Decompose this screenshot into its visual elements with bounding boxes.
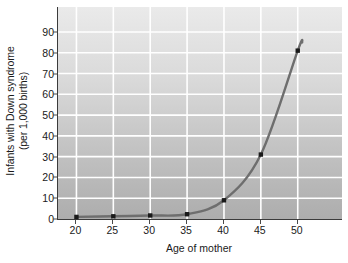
- chart-figure: Infants with Down syndrome (per 1,000 bi…: [0, 0, 348, 263]
- x-axis-tick-label: 50: [291, 224, 303, 236]
- x-axis-tick-label: 30: [143, 224, 155, 236]
- y-axis-tick-mark: [53, 177, 57, 178]
- y-axis-label-line1: Infants with Down syndrome: [4, 46, 17, 175]
- y-axis-tick-mark: [53, 135, 57, 136]
- y-axis-tick-mark: [53, 52, 57, 53]
- y-axis-tick-label: 70: [30, 68, 54, 79]
- y-axis-tick-mark: [53, 73, 57, 74]
- y-axis-tick-mark: [53, 198, 57, 199]
- y-axis-tick-label: 60: [30, 89, 54, 100]
- y-axis-tick-label: 0: [30, 214, 54, 225]
- x-axis-tick-mark: [260, 220, 261, 224]
- x-axis-tick-labels: 20253035404550: [57, 224, 341, 240]
- data-point-marker: [185, 212, 189, 216]
- y-axis-tick-mark: [53, 219, 57, 220]
- plot-area: [57, 7, 342, 220]
- y-axis-label-text: Infants with Down syndrome (per 1,000 bi…: [4, 46, 30, 175]
- y-axis-tick-label: 90: [30, 26, 54, 37]
- y-axis-tick-label: 10: [30, 193, 54, 204]
- y-axis-tick-label: 40: [30, 130, 54, 141]
- y-axis-tick-label: 30: [30, 151, 54, 162]
- y-axis-tick-mark: [53, 156, 57, 157]
- data-point-marker: [296, 48, 300, 52]
- x-axis-tick-mark: [223, 220, 224, 224]
- data-point-marker: [259, 152, 263, 156]
- y-axis-tick-label: 50: [30, 110, 54, 121]
- data-point-marker: [148, 213, 152, 217]
- data-point-marker: [222, 198, 226, 202]
- y-axis-tick-labels: 0102030405060708090: [30, 0, 54, 230]
- x-axis-tick-label: 35: [180, 224, 192, 236]
- x-axis-tick-label: 20: [70, 224, 82, 236]
- y-axis-label: Infants with Down syndrome (per 1,000 bi…: [0, 0, 34, 222]
- data-curve: [76, 40, 302, 217]
- y-axis-tick-label: 80: [30, 47, 54, 58]
- x-axis-tick-label: 45: [254, 224, 266, 236]
- x-axis-tick-label: 25: [106, 224, 118, 236]
- x-axis-tick-mark: [112, 220, 113, 224]
- x-axis-tick-mark: [75, 220, 76, 224]
- y-axis-tick-mark: [53, 115, 57, 116]
- data-point-marker: [74, 215, 78, 219]
- x-axis-tick-label: 40: [217, 224, 229, 236]
- y-axis-tick-mark: [53, 94, 57, 95]
- x-axis-tick-mark: [186, 220, 187, 224]
- y-axis-label-line2: (per 1,000 births): [17, 46, 30, 175]
- data-point-marker: [111, 214, 115, 218]
- x-axis-tick-mark: [149, 220, 150, 224]
- y-axis-tick-mark: [53, 31, 57, 32]
- data-layer: [58, 7, 342, 219]
- y-axis-tick-label: 20: [30, 172, 54, 183]
- x-axis-tick-mark: [297, 220, 298, 224]
- x-axis-label: Age of mother: [57, 242, 341, 254]
